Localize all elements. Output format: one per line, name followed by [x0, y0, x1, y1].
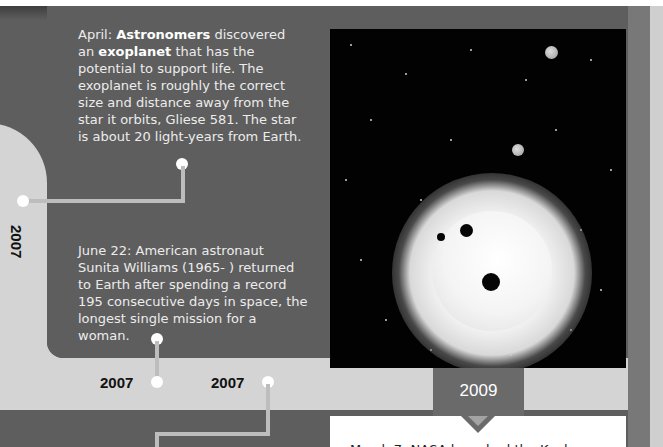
star-dot — [470, 49, 472, 51]
transiting-planet-small — [437, 233, 445, 241]
bold-exoplanet: exoplanet — [98, 44, 171, 59]
star-dot — [525, 79, 527, 81]
year-label-vertical: 2007 — [8, 225, 25, 258]
star-dot — [350, 44, 352, 46]
event-williams-text: June 22: American astronaut Sunita Willi… — [78, 242, 308, 344]
connector-line — [22, 199, 185, 203]
connector-line — [155, 432, 159, 447]
star-dot — [405, 73, 407, 75]
year-tab-pointer-inner — [468, 416, 488, 426]
year-label-bottom-2: 2007 — [211, 374, 244, 391]
star-dot — [360, 259, 362, 261]
distant-planet — [512, 144, 524, 156]
star-dot — [600, 289, 602, 291]
star-dot — [345, 179, 347, 181]
host-star — [432, 211, 552, 331]
right-margin-dark — [628, 6, 650, 447]
connector-line — [181, 166, 185, 202]
connector-line — [266, 384, 270, 436]
bold-astronomers: Astronomers — [116, 27, 210, 42]
year-tab-2009: 2009 — [433, 368, 524, 416]
distant-planet — [545, 46, 558, 59]
star-dot — [555, 129, 557, 131]
event-kepler-text: March 7: NASA launched the Kepler — [350, 442, 581, 447]
star-dot — [370, 119, 372, 121]
connector-line — [155, 432, 270, 436]
star-dot — [610, 169, 612, 171]
exoplanet-illustration — [330, 29, 626, 368]
book-page: April: Astronomers discovered an exoplan… — [0, 6, 663, 447]
star-dot — [450, 139, 452, 141]
connector-line — [155, 341, 159, 376]
transiting-planet-large — [482, 273, 500, 291]
star-dot — [590, 59, 592, 61]
right-margin-light — [650, 6, 663, 447]
year-label-bottom-1: 2007 — [100, 374, 133, 391]
timeline-dot — [151, 376, 163, 388]
event-exoplanet-text: April: Astronomers discovered an exoplan… — [78, 26, 303, 145]
star-dot — [385, 319, 387, 321]
timeline-dot — [17, 195, 29, 207]
transiting-planet-medium — [460, 224, 473, 237]
